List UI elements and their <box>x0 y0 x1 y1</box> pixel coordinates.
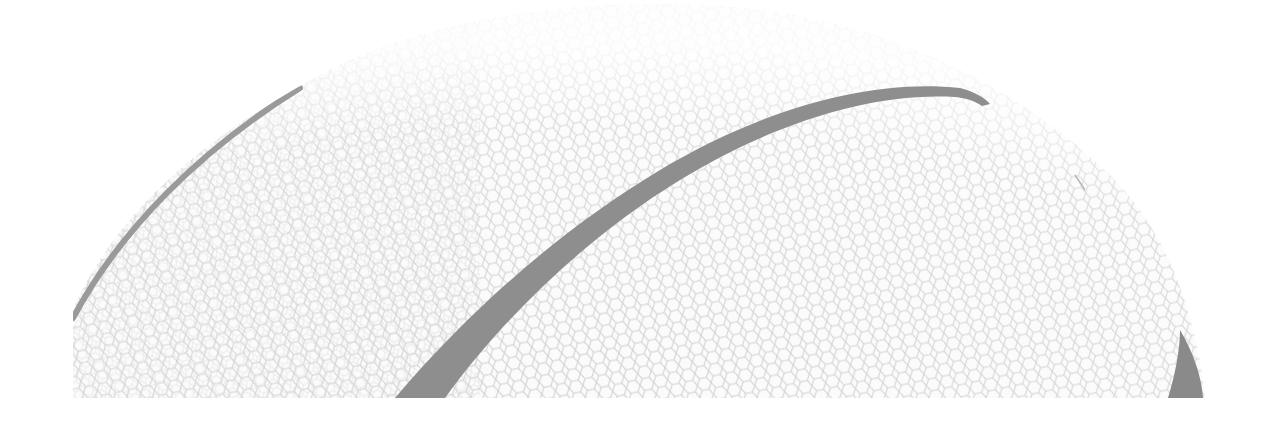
ball-surface <box>0 0 1272 435</box>
basketball-image <box>0 0 1272 435</box>
basketball-illustration <box>0 0 1272 435</box>
